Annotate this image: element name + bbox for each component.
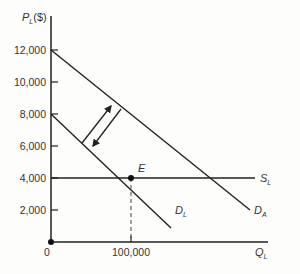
x-tick-label-100000: 100,000 [112, 246, 150, 258]
y-axis-label: PL($) [22, 11, 47, 25]
shift-arrow-up-icon [82, 106, 111, 143]
demand-curve-da [51, 50, 250, 210]
sl-label: SL [260, 172, 271, 186]
da-label: DA [254, 204, 267, 218]
y-tick-2000: 2,000 [20, 204, 46, 216]
demand-curve-dl [51, 114, 171, 228]
y-tick-6000: 6,000 [20, 140, 46, 152]
dl-label: DL [175, 204, 187, 218]
y-tick-12000: 12,000 [14, 44, 46, 56]
x-axis-label: QL [255, 246, 268, 260]
origin-point [48, 239, 54, 245]
shift-arrow-down-icon [93, 109, 121, 146]
labor-market-chart: PL($) 12,000 10,000 8,000 6,000 4,000 2,… [0, 0, 300, 274]
origin-label: 0 [44, 246, 50, 258]
equilibrium-point-e [128, 175, 134, 181]
y-tick-10000: 10,000 [14, 76, 46, 88]
y-tick-4000: 4,000 [20, 172, 46, 184]
e-label: E [138, 162, 146, 174]
y-ticks [51, 50, 58, 210]
y-tick-8000: 8,000 [20, 108, 46, 120]
